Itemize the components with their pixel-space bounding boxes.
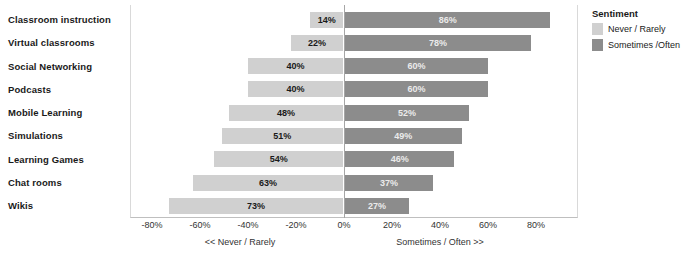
bar-row: Wikis73%27%	[0, 194, 695, 217]
bar-row: Podcasts40%60%	[0, 78, 695, 101]
bar-value-label: 46%	[345, 151, 454, 167]
legend-item[interactable]: Never / Rarely	[592, 23, 692, 35]
bar-never-rarely: 22%	[291, 35, 343, 51]
bar-never-rarely: 40%	[248, 58, 343, 74]
bar-value-label: 40%	[248, 81, 343, 97]
legend-item-label: Never / Rarely	[608, 24, 666, 34]
bar-never-rarely: 54%	[214, 151, 343, 167]
bar-value-label: 78%	[345, 35, 531, 51]
bar-sometimes-often: 86%	[345, 12, 550, 28]
bar-value-label: 27%	[345, 198, 409, 214]
legend-title: Sentiment	[592, 8, 692, 19]
bar-sometimes-often: 52%	[345, 105, 469, 121]
bar-value-label: 63%	[193, 175, 343, 191]
legend-swatch-icon	[592, 23, 603, 35]
bar-value-label: 40%	[248, 58, 343, 74]
bar-never-rarely: 51%	[222, 128, 343, 144]
axis-caption-right: Sometimes / Often >>	[396, 237, 484, 247]
x-axis-tick-labels: -80%-60%-40%-20%0%20%40%60%80%	[0, 220, 695, 234]
legend-items: Never / RarelySometimes /Often	[592, 23, 692, 51]
x-axis-tick: -20%	[285, 220, 306, 230]
x-axis-tick: -40%	[237, 220, 258, 230]
bar-never-rarely: 63%	[193, 175, 343, 191]
bar-row: Chat rooms63%37%	[0, 171, 695, 194]
bar-row: Simulations51%49%	[0, 124, 695, 147]
bar-sometimes-often: 60%	[345, 58, 488, 74]
x-axis-tick: -60%	[189, 220, 210, 230]
bar-value-label: 73%	[169, 198, 343, 214]
bar-never-rarely: 48%	[229, 105, 343, 121]
bar-value-label: 37%	[345, 175, 433, 191]
category-label: Chat rooms	[8, 171, 62, 194]
axis-caption-left: << Never / Rarely	[205, 237, 276, 247]
bar-never-rarely: 40%	[248, 81, 343, 97]
x-axis-captions: << Never / Rarely Sometimes / Often >>	[0, 237, 695, 251]
x-axis-tick: 60%	[479, 220, 497, 230]
legend-swatch-icon	[592, 39, 603, 51]
bar-value-label: 49%	[345, 128, 462, 144]
bar-row: Social Networking40%60%	[0, 55, 695, 78]
category-label: Virtual classrooms	[8, 31, 95, 54]
bar-value-label: 48%	[229, 105, 343, 121]
legend-item-label: Sometimes /Often	[608, 40, 680, 50]
zero-axis-line	[344, 5, 345, 218]
x-axis-tick: 20%	[383, 220, 401, 230]
x-axis-tick: 40%	[431, 220, 449, 230]
x-axis-tick: 80%	[527, 220, 545, 230]
chart-title-truncated	[0, 0, 580, 4]
bar-sometimes-often: 78%	[345, 35, 531, 51]
category-label: Learning Games	[8, 148, 84, 171]
legend-item[interactable]: Sometimes /Often	[592, 39, 692, 51]
bar-value-label: 60%	[345, 81, 488, 97]
bar-sometimes-often: 46%	[345, 151, 454, 167]
x-axis-tick: 0%	[337, 220, 350, 230]
category-label: Mobile Learning	[8, 101, 82, 124]
bar-value-label: 86%	[345, 12, 550, 28]
x-axis-tick: -80%	[141, 220, 162, 230]
bar-row: Classroom instruction14%86%	[0, 8, 695, 31]
bar-sometimes-often: 27%	[345, 198, 409, 214]
bar-value-label: 22%	[291, 35, 343, 51]
category-label: Classroom instruction	[8, 8, 111, 31]
bar-sometimes-often: 60%	[345, 81, 488, 97]
category-label: Podcasts	[8, 78, 51, 101]
legend: Sentiment Never / RarelySometimes /Often	[592, 8, 692, 55]
bar-value-label: 54%	[214, 151, 343, 167]
category-label: Simulations	[8, 124, 63, 147]
bar-row: Mobile Learning48%52%	[0, 101, 695, 124]
bar-value-label: 14%	[310, 12, 343, 28]
bar-row: Learning Games54%46%	[0, 148, 695, 171]
bar-sometimes-often: 37%	[345, 175, 433, 191]
bar-value-label: 52%	[345, 105, 469, 121]
diverging-bar-chart: Classroom instruction14%86%Virtual class…	[0, 0, 695, 258]
bar-value-label: 60%	[345, 58, 488, 74]
bar-row: Virtual classrooms22%78%	[0, 31, 695, 54]
bar-sometimes-often: 49%	[345, 128, 462, 144]
category-label: Wikis	[8, 194, 33, 217]
bar-value-label: 51%	[222, 128, 343, 144]
bar-never-rarely: 14%	[310, 12, 343, 28]
bar-rows: Classroom instruction14%86%Virtual class…	[0, 8, 695, 218]
bar-never-rarely: 73%	[169, 198, 343, 214]
category-label: Social Networking	[8, 55, 92, 78]
